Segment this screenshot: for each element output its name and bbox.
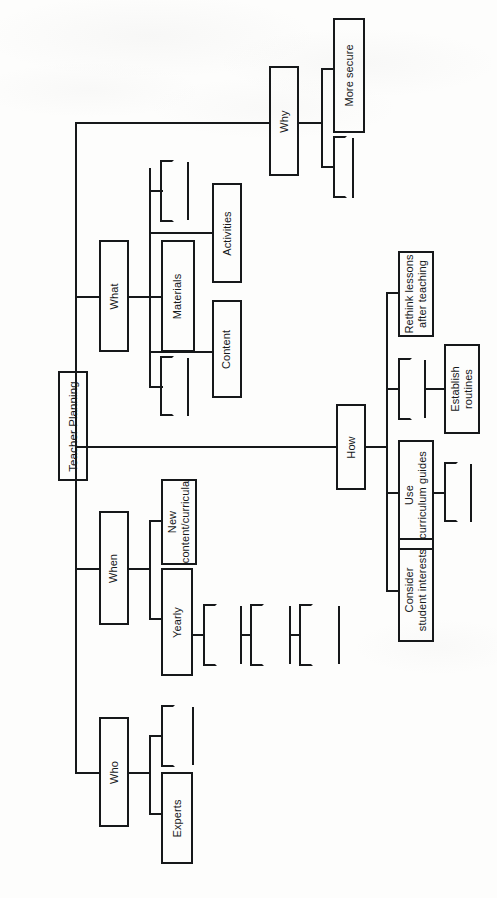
node-who[interactable]: Who xyxy=(99,717,129,827)
node-when[interactable]: When xyxy=(99,511,129,625)
node-when-blank-3[interactable] xyxy=(299,604,313,666)
node-what-materials[interactable]: Materials xyxy=(161,240,195,352)
node-why-more-secure[interactable]: More secure xyxy=(333,18,365,133)
node-when-new-content-curricula[interactable]: New content/curricula xyxy=(161,479,197,565)
connector-spine-to-how xyxy=(75,446,337,448)
diagram-canvas: Teacher Planning Why More secure What Ac… xyxy=(0,0,497,898)
node-label: Teacher Planning xyxy=(67,381,80,471)
connector-spine-to-when xyxy=(75,568,100,570)
node-label: When xyxy=(108,553,121,582)
node-label: How xyxy=(345,436,358,458)
connector-spine-to-what xyxy=(75,296,100,298)
connector-spine-to-who xyxy=(75,772,100,774)
connector-why-out xyxy=(299,122,323,124)
connector-who-out xyxy=(129,772,151,774)
connector-why-fan xyxy=(321,68,323,168)
connector-who-fan xyxy=(149,735,151,815)
node-how-rethink-lessons[interactable]: Rethink lessons after teaching xyxy=(398,251,434,337)
node-label: Yearly xyxy=(171,607,184,638)
node-label: What xyxy=(108,283,121,309)
node-what-blank-4 xyxy=(187,358,189,416)
node-how-blank-2-edge xyxy=(470,464,472,522)
connector-when-out xyxy=(129,568,151,570)
node-label: Establish routines xyxy=(449,366,475,412)
node-how-blank-2[interactable] xyxy=(444,462,458,522)
connector-what-to-content xyxy=(149,351,214,353)
connector-how-out xyxy=(366,446,388,448)
connector-what-fan xyxy=(149,168,151,388)
node-what-blank-1[interactable] xyxy=(160,160,174,222)
node-when-yearly[interactable]: Yearly xyxy=(161,568,193,676)
connector-what-out xyxy=(129,296,151,298)
node-what[interactable]: What xyxy=(99,240,129,352)
connector-how-fan xyxy=(386,292,388,592)
connector-blank-to-establish xyxy=(424,388,446,390)
node-when-blank-3-edge xyxy=(338,606,340,664)
node-why-blank-1[interactable] xyxy=(333,136,347,198)
node-label: Rethink lessons after teaching xyxy=(403,254,429,333)
node-root-teacher-planning[interactable]: Teacher Planning xyxy=(58,371,88,481)
node-how-establish-routines[interactable]: Establish routines xyxy=(444,344,480,434)
node-how[interactable]: How xyxy=(336,404,366,490)
node-what-blank-3[interactable] xyxy=(160,356,174,416)
node-label: Experts xyxy=(171,799,184,837)
node-who-experts[interactable]: Experts xyxy=(161,772,193,864)
connector-spine-to-why xyxy=(75,122,269,124)
node-what-blank-2[interactable] xyxy=(187,162,189,220)
node-label: Use curriculum guides xyxy=(403,451,429,539)
node-label: Content xyxy=(221,329,234,368)
node-label: Who xyxy=(107,761,120,784)
node-who-blank-1[interactable] xyxy=(161,705,175,767)
node-why-blank-1-edge xyxy=(352,138,354,198)
node-label: Consider student interests xyxy=(403,549,429,631)
node-when-blank-2[interactable] xyxy=(250,604,264,666)
node-label: Materials xyxy=(172,273,185,319)
node-label: Why xyxy=(278,110,291,132)
node-how-consider-student-interests[interactable]: Consider student interests xyxy=(398,538,434,642)
node-label: New content/curricula xyxy=(166,481,192,563)
node-what-activities[interactable]: Activities xyxy=(212,183,242,283)
node-why[interactable]: Why xyxy=(269,66,299,176)
node-label: Activities xyxy=(221,211,234,255)
node-label: More secure xyxy=(343,44,356,106)
node-what-content[interactable]: Content xyxy=(212,300,242,398)
node-who-blank-1-edge xyxy=(192,707,194,765)
node-how-use-curriculum-guides[interactable]: Use curriculum guides xyxy=(398,440,434,550)
connector-what-to-activities xyxy=(149,232,214,234)
node-how-blank-1[interactable] xyxy=(398,358,412,420)
node-when-blank-1[interactable] xyxy=(203,604,217,666)
connector-when-fan xyxy=(149,520,151,620)
